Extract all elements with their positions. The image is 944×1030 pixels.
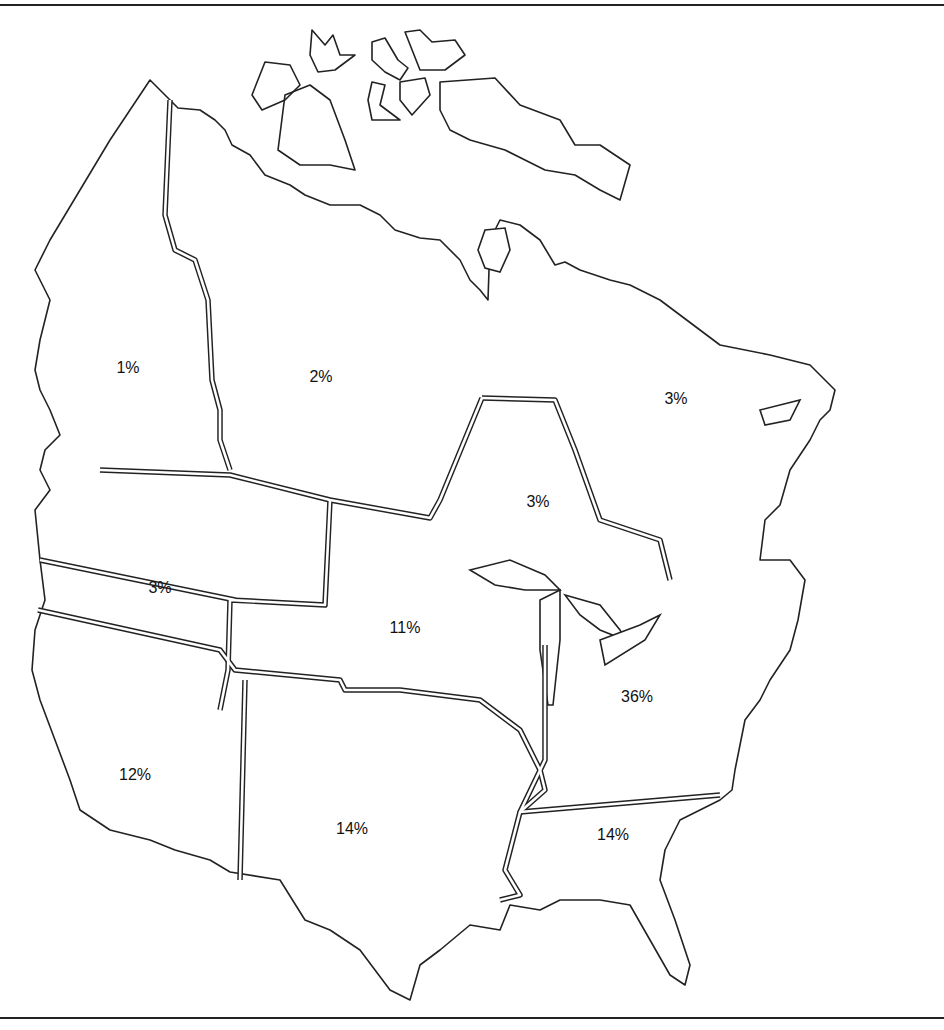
region-label-eastern-canada: 3% xyxy=(664,390,687,408)
region-label-west: 12% xyxy=(119,766,151,784)
region-label-pacific-northwest: 3% xyxy=(148,579,171,597)
region-label-southeast: 14% xyxy=(597,826,629,844)
region-label-alaska-yukon: 1% xyxy=(116,359,139,377)
region-label-south-central: 14% xyxy=(336,820,368,838)
region-label-northwest-territories: 2% xyxy=(309,368,332,386)
region-label-central-north: 11% xyxy=(390,619,421,637)
region-label-northeast: 36% xyxy=(621,688,653,706)
region-label-ontario-north: 3% xyxy=(526,493,549,511)
bottom-rule xyxy=(0,1017,944,1019)
north-america-map xyxy=(0,0,944,1030)
